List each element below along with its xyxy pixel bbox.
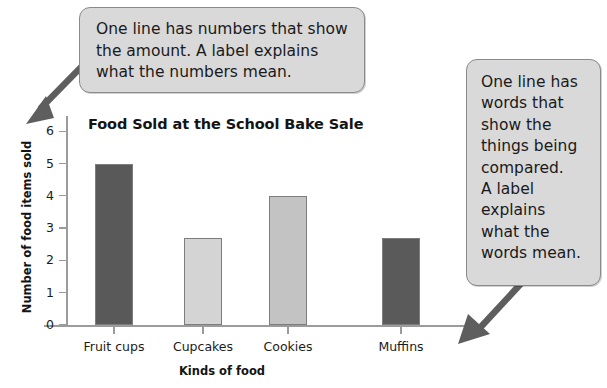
y-axis-line [66,116,68,326]
bar [95,164,133,326]
y-tick-mark [59,131,67,132]
y-tick-mark [59,260,67,261]
y-tick-mark [59,163,67,164]
y-tick-label: 4 [36,188,54,203]
x-tick-label: Cookies [233,339,343,354]
x-tick-mark [113,326,114,334]
callout-words: One line has words that show the things … [466,59,601,286]
y-tick-label: 0 [36,317,54,332]
chart-title: Food Sold at the School Bake Sale [88,116,388,132]
x-axis-label: Kinds of food [112,364,332,378]
y-tick-label: 3 [36,220,54,235]
y-tick-label: 2 [36,252,54,267]
y-tick-mark [59,227,67,228]
x-tick-mark [400,326,401,334]
bar [382,238,420,325]
y-axis-label: Number of food items sold [20,127,34,327]
y-tick-label: 1 [36,285,54,300]
x-tick-label: Muffins [346,339,456,354]
y-tick-label: 5 [36,156,54,171]
callout-numbers-text: One line has numbers that show the amoun… [96,19,352,84]
x-tick-mark [202,326,203,334]
callout-words-text: One line has words that show the things … [481,72,590,265]
callout-numbers: One line has numbers that show the amoun… [79,7,365,93]
y-tick-mark [59,324,67,325]
bar [184,238,222,325]
y-tick-mark [59,292,67,293]
y-tick-label: 6 [36,123,54,138]
x-tick-mark [287,326,288,334]
bar [269,196,307,325]
y-tick-mark [59,195,67,196]
x-axis-line [44,325,472,327]
bar-chart-annotated-figure: Food Sold at the School Bake Sale Number… [0,0,607,388]
